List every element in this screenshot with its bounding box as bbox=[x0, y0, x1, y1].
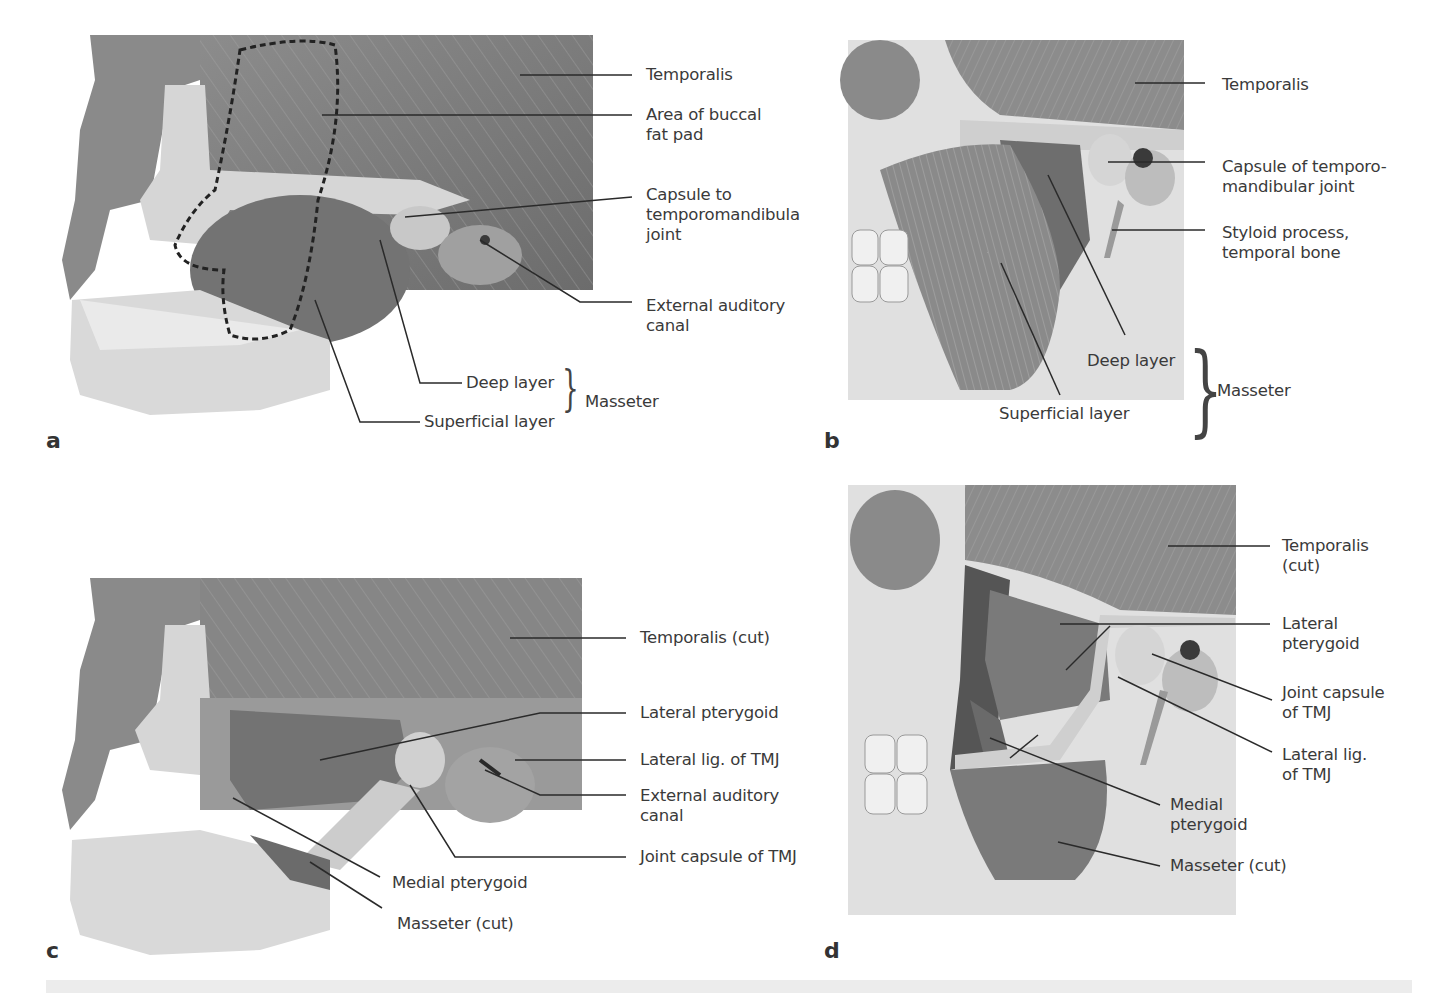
caption-bar bbox=[46, 980, 1412, 993]
panel-d: Temporalis (cut) Lateral pterygoid Joint… bbox=[0, 0, 1438, 993]
label-lateral-lig-tmj: Lateral lig. of TMJ bbox=[1282, 745, 1367, 785]
label-medial-pterygoid: Medial pterygoid bbox=[1170, 795, 1247, 835]
panel-d-illustration bbox=[0, 0, 1438, 993]
panel-letter-d: d bbox=[824, 938, 840, 963]
label-lateral-pterygoid: Lateral pterygoid bbox=[1282, 614, 1359, 654]
label-masseter-cut: Masseter (cut) bbox=[1170, 856, 1286, 876]
label-joint-capsule-tmj: Joint capsule of TMJ bbox=[1282, 683, 1385, 723]
label-temporalis-cut: Temporalis (cut) bbox=[1282, 536, 1369, 576]
